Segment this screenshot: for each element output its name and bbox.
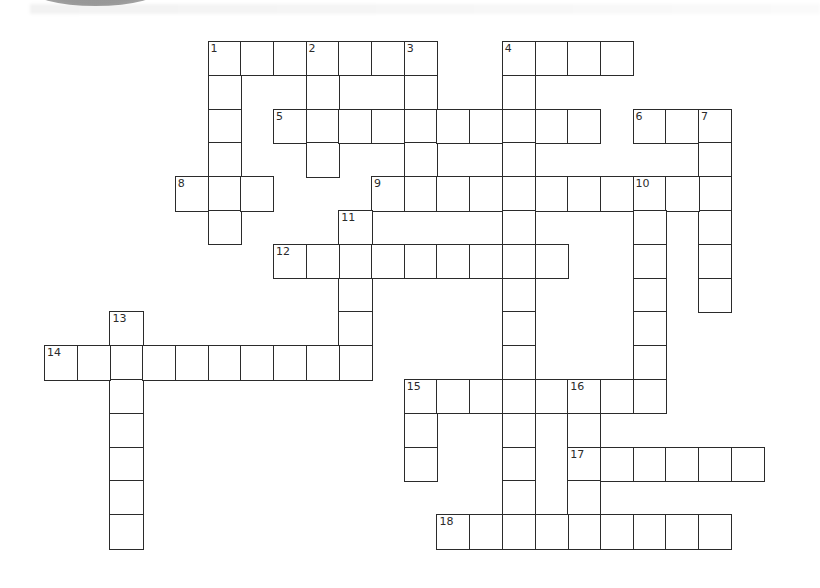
crossword-cell[interactable]: 7 <box>698 109 732 144</box>
crossword-cell[interactable] <box>404 413 438 448</box>
crossword-cell[interactable]: 6 <box>633 109 667 144</box>
crossword-cell[interactable] <box>502 413 536 448</box>
crossword-cell[interactable]: 5 <box>273 109 307 144</box>
crossword-cell[interactable] <box>698 176 732 211</box>
crossword-cell[interactable] <box>109 480 143 515</box>
crossword-cell[interactable] <box>109 379 143 414</box>
crossword-cell[interactable] <box>142 345 176 380</box>
crossword-cell[interactable] <box>338 109 372 144</box>
crossword-cell[interactable] <box>665 447 699 482</box>
crossword-cell[interactable] <box>698 210 732 245</box>
crossword-cell[interactable] <box>535 244 569 279</box>
crossword-cell[interactable] <box>698 142 732 177</box>
crossword-cell[interactable]: 15 <box>404 379 438 414</box>
crossword-cell[interactable]: 17 <box>567 447 601 482</box>
crossword-cell[interactable] <box>567 480 601 515</box>
crossword-cell[interactable] <box>469 176 503 211</box>
crossword-cell[interactable]: 10 <box>633 176 667 211</box>
crossword-cell[interactable] <box>600 41 634 76</box>
crossword-cell[interactable] <box>633 311 667 346</box>
crossword-cell[interactable] <box>567 41 601 76</box>
crossword-cell[interactable]: 3 <box>404 41 438 76</box>
crossword-cell[interactable] <box>567 176 601 211</box>
crossword-cell[interactable] <box>404 75 438 110</box>
crossword-cell[interactable] <box>240 345 274 380</box>
crossword-cell[interactable] <box>77 345 111 380</box>
crossword-cell[interactable] <box>502 75 536 110</box>
crossword-cell[interactable] <box>535 41 569 76</box>
crossword-cell[interactable] <box>633 379 667 414</box>
crossword-cell[interactable] <box>306 244 340 279</box>
crossword-cell[interactable] <box>208 142 242 177</box>
crossword-cell[interactable] <box>306 345 340 380</box>
crossword-cell[interactable]: 16 <box>567 379 601 414</box>
crossword-cell[interactable] <box>502 210 536 245</box>
crossword-cell[interactable] <box>502 311 536 346</box>
crossword-cell[interactable] <box>502 278 536 313</box>
crossword-cell[interactable] <box>600 176 634 211</box>
crossword-cell[interactable] <box>338 244 372 279</box>
crossword-cell[interactable] <box>502 447 536 482</box>
crossword-cell[interactable]: 18 <box>436 514 470 549</box>
crossword-cell[interactable] <box>600 379 634 414</box>
crossword-cell[interactable] <box>535 176 569 211</box>
crossword-cell[interactable] <box>371 41 405 76</box>
crossword-cell[interactable] <box>371 244 405 279</box>
crossword-cell[interactable] <box>338 345 372 380</box>
crossword-cell[interactable] <box>240 176 274 211</box>
crossword-cell[interactable] <box>633 244 667 279</box>
crossword-cell[interactable] <box>208 75 242 110</box>
crossword-cell[interactable] <box>665 514 699 549</box>
crossword-cell[interactable] <box>698 244 732 279</box>
crossword-cell[interactable] <box>436 244 470 279</box>
crossword-cell[interactable] <box>338 278 372 313</box>
crossword-cell[interactable] <box>600 447 634 482</box>
crossword-cell[interactable] <box>535 109 569 144</box>
crossword-cell[interactable] <box>633 345 667 380</box>
crossword-cell[interactable] <box>371 109 405 144</box>
crossword-cell[interactable] <box>175 345 209 380</box>
crossword-cell[interactable]: 9 <box>371 176 405 211</box>
crossword-cell[interactable] <box>208 109 242 144</box>
crossword-cell[interactable] <box>502 514 536 549</box>
crossword-cell[interactable] <box>502 480 536 515</box>
crossword-cell[interactable] <box>469 109 503 144</box>
crossword-cell[interactable] <box>109 413 143 448</box>
crossword-cell[interactable] <box>633 514 667 549</box>
crossword-cell[interactable] <box>404 142 438 177</box>
crossword-cell[interactable] <box>535 514 569 549</box>
crossword-cell[interactable] <box>633 278 667 313</box>
crossword-cell[interactable] <box>436 109 470 144</box>
crossword-cell[interactable]: 11 <box>338 210 372 245</box>
crossword-cell[interactable] <box>665 109 699 144</box>
crossword-cell[interactable] <box>404 109 438 144</box>
crossword-cell[interactable] <box>404 244 438 279</box>
crossword-cell[interactable] <box>665 176 699 211</box>
crossword-cell[interactable]: 4 <box>502 41 536 76</box>
crossword-cell[interactable] <box>633 210 667 245</box>
crossword-cell[interactable] <box>567 514 601 549</box>
crossword-cell[interactable]: 13 <box>109 311 143 346</box>
crossword-cell[interactable] <box>208 176 242 211</box>
crossword-cell[interactable] <box>404 447 438 482</box>
crossword-cell[interactable] <box>535 379 569 414</box>
crossword-cell[interactable] <box>502 109 536 144</box>
crossword-cell[interactable] <box>436 379 470 414</box>
crossword-cell[interactable] <box>469 514 503 549</box>
crossword-cell[interactable] <box>502 244 536 279</box>
crossword-cell[interactable] <box>698 278 732 313</box>
crossword-cell[interactable] <box>306 75 340 110</box>
crossword-cell[interactable]: 12 <box>273 244 307 279</box>
crossword-cell[interactable] <box>567 109 601 144</box>
crossword-cell[interactable] <box>306 109 340 144</box>
crossword-cell[interactable]: 1 <box>208 41 242 76</box>
crossword-cell[interactable] <box>208 210 242 245</box>
crossword-cell[interactable] <box>273 41 307 76</box>
crossword-cell[interactable] <box>600 514 634 549</box>
crossword-cell[interactable]: 8 <box>175 176 209 211</box>
crossword-cell[interactable] <box>436 176 470 211</box>
crossword-cell[interactable] <box>469 244 503 279</box>
crossword-cell[interactable] <box>698 447 732 482</box>
crossword-cell[interactable] <box>273 345 307 380</box>
crossword-cell[interactable] <box>109 514 143 549</box>
